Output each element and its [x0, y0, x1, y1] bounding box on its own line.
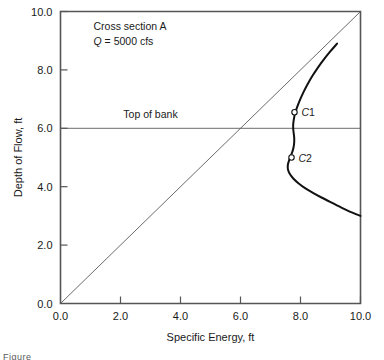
marker-c2	[289, 155, 294, 160]
y-tick-label: 6.0	[37, 122, 52, 134]
marker-c1	[292, 110, 297, 115]
annotation-discharge: Q = 5000 cfs	[94, 35, 154, 47]
annotation-cross-section: Cross section A	[94, 20, 167, 32]
x-tick-label: 2.0	[113, 310, 128, 322]
y-tick-label: 0.0	[37, 298, 52, 310]
x-tick-label: 0.0	[53, 310, 68, 322]
marker-label-c2: C2	[299, 152, 313, 164]
y-tick-label: 2.0	[37, 239, 52, 251]
x-tick-label: 6.0	[233, 310, 248, 322]
caption-fragment: Figure	[3, 352, 32, 360]
y-tick-label: 4.0	[37, 181, 52, 193]
x-tick-label: 10.0	[350, 310, 371, 322]
y-tick-label: 8.0	[37, 64, 52, 76]
x-axis-title: Specific Energy, ft	[167, 331, 255, 343]
annotation-top-of-bank: Top of bank	[123, 108, 178, 120]
x-tick-label: 8.0	[293, 310, 308, 322]
y-axis-title: Depth of Flow, ft	[12, 118, 24, 197]
y-tick-label: 10.0	[31, 6, 52, 18]
marker-label-c1: C1	[302, 106, 316, 118]
x-tick-label: 4.0	[173, 310, 188, 322]
